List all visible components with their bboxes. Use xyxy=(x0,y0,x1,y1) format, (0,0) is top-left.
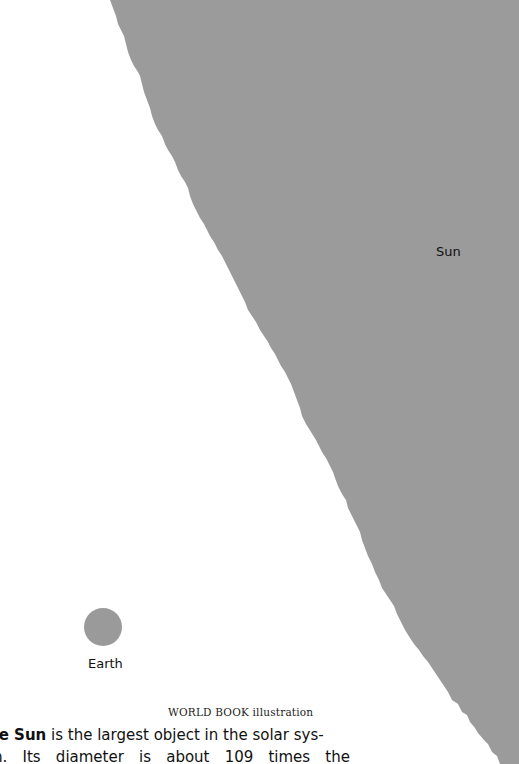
caption-bold-lead: he Sun xyxy=(0,726,46,744)
caption-line-2: m. Its diameter is about 109 times the xyxy=(0,746,350,764)
caption-word: is xyxy=(139,746,151,764)
earth-label: Earth xyxy=(88,656,123,671)
figure-caption: he Sun is the largest object in the sola… xyxy=(0,724,350,764)
sun-illustration xyxy=(0,0,519,764)
earth-disc xyxy=(84,608,122,646)
illustration-credit: WORLD BOOK illustration xyxy=(168,706,313,718)
caption-word: times xyxy=(268,746,310,764)
caption-line-1: he Sun is the largest object in the sola… xyxy=(0,724,350,746)
caption-word: diameter xyxy=(56,746,124,764)
caption-line-1-text: is the largest object in the solar sys- xyxy=(46,726,323,744)
caption-word: the xyxy=(325,746,350,764)
sun-label: Sun xyxy=(436,244,461,259)
caption-word: about xyxy=(166,746,209,764)
caption-word: Its xyxy=(23,746,41,764)
caption-word: m. xyxy=(0,746,7,764)
sun-disc-edge xyxy=(110,0,519,764)
caption-word: 109 xyxy=(225,746,254,764)
